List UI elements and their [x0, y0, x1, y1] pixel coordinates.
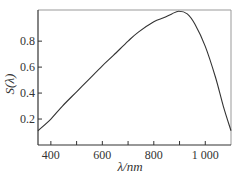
series-line-s-lambda [38, 11, 231, 130]
y-tick-label: 0.6 [20, 60, 35, 74]
x-tick-label: 800 [145, 148, 163, 162]
y-tick-label: 0.4 [20, 86, 35, 100]
y-tick-label: 0.2 [20, 112, 35, 126]
y-tick-label: 0.8 [20, 34, 35, 48]
x-axis-title: λ/nm [116, 159, 142, 174]
x-tick-label: 1 000 [192, 148, 219, 162]
chart: 4006008001 0000.20.40.60.8 λ/nm S(λ) [0, 0, 240, 179]
x-tick-label: 400 [42, 148, 60, 162]
y-axis-title: S(λ) [2, 74, 17, 95]
x-tick-label: 600 [93, 148, 111, 162]
